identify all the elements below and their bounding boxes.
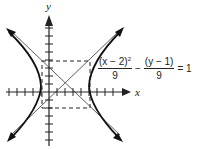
equation: (x − 2)2 9 − (y − 1) 9 = 1 — [98, 56, 195, 81]
equals-one: = 1 — [177, 63, 191, 74]
x-axis — [6, 88, 131, 96]
x-axis-label: x — [135, 87, 140, 98]
numerator-y: (y − 1) — [144, 56, 175, 69]
denominator-x: 9 — [112, 69, 118, 81]
right-branch — [89, 31, 121, 138]
left-branch — [9, 32, 41, 138]
fraction-x: (x − 2)2 9 — [98, 56, 132, 81]
arrow-upper-left-icon — [6, 28, 16, 37]
minus-operator: − — [135, 63, 141, 74]
y-axis — [45, 15, 53, 146]
denominator-y: 9 — [156, 69, 162, 81]
hyperbola-diagram: y x (x − 2)2 9 − (y − 1) 9 = 1 — [0, 0, 206, 149]
x-axis-arrow-icon — [122, 88, 131, 96]
numerator-x: (x − 2)2 — [98, 56, 132, 69]
numerator-x-text: (x − 2) — [99, 56, 128, 67]
fraction-y: (y − 1) 9 — [144, 56, 175, 81]
exponent: 2 — [128, 56, 131, 62]
y-axis-label: y — [46, 1, 51, 12]
y-axis-arrow-icon — [45, 15, 53, 26]
